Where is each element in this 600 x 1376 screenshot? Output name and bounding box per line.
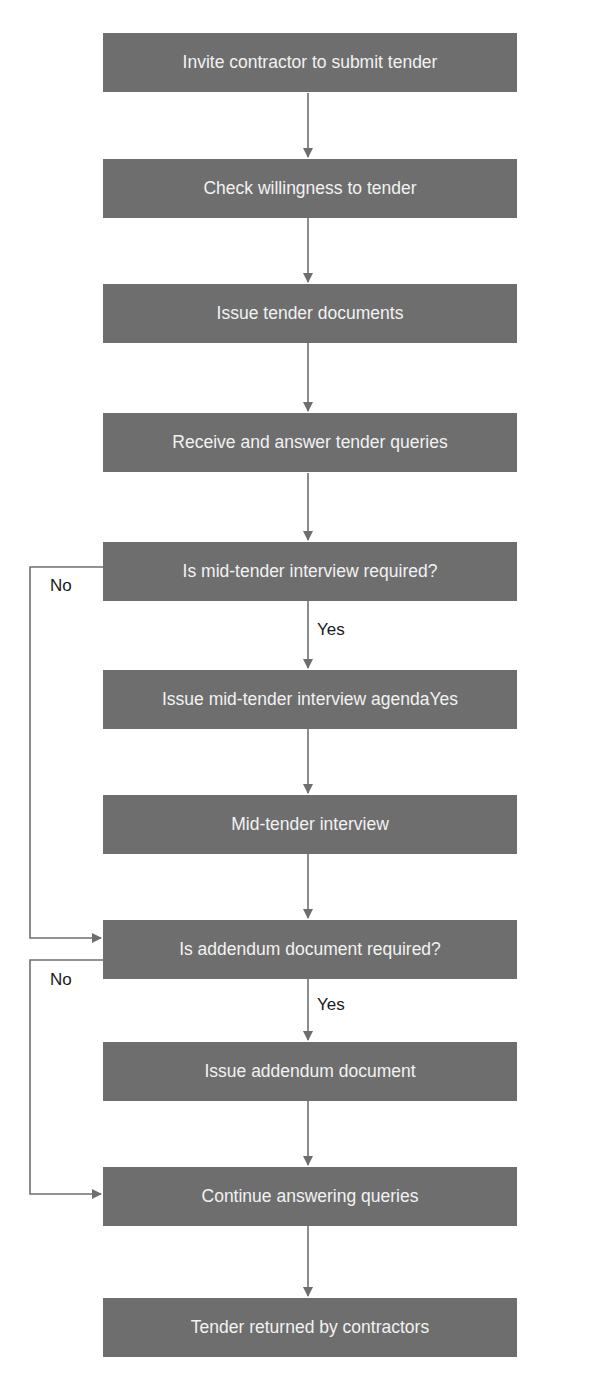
node-issue-addendum: Issue addendum document xyxy=(103,1042,517,1101)
label-yes-mid-tender: Yes xyxy=(317,620,345,640)
arrow-n5-no-n8 xyxy=(30,567,103,938)
node-continue-answering: Continue answering queries xyxy=(103,1167,517,1226)
node-tender-returned: Tender returned by contractors xyxy=(103,1298,517,1357)
label-no-mid-tender: No xyxy=(50,576,72,596)
node-issue-tender-documents: Issue tender documents xyxy=(103,284,517,343)
node-issue-interview-agenda: Issue mid-tender interview agendaYes xyxy=(103,670,517,729)
flowchart: Invite contractor to submit tender Check… xyxy=(0,0,600,1376)
label-no-addendum: No xyxy=(50,970,72,990)
arrow-n8-no-n10 xyxy=(30,960,103,1194)
node-mid-tender-interview: Mid-tender interview xyxy=(103,795,517,854)
node-check-willingness: Check willingness to tender xyxy=(103,159,517,218)
decision-addendum-required: Is addendum document required? xyxy=(103,920,517,979)
node-receive-answer-queries: Receive and answer tender queries xyxy=(103,413,517,472)
node-invite-contractor: Invite contractor to submit tender xyxy=(103,33,517,92)
label-yes-addendum: Yes xyxy=(317,995,345,1015)
decision-mid-tender-interview: Is mid-tender interview required? xyxy=(103,542,517,601)
